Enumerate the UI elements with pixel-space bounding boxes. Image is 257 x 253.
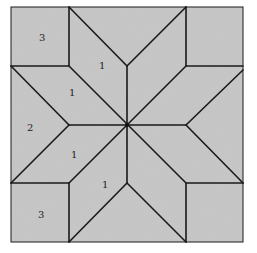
label-diamond-top: 1	[99, 60, 105, 71]
label-corner-bottom-left: 3	[38, 209, 44, 220]
label-triangle-left: 2	[27, 122, 33, 133]
label-diamond-lower-left: 1	[71, 149, 77, 160]
label-diamond-bottom: 1	[102, 179, 108, 190]
star-quilt-diagram: 3 1 1 2 1 1 3	[0, 0, 257, 253]
label-corner-top-left: 3	[39, 32, 45, 43]
label-diamond-upper-left: 1	[69, 87, 75, 98]
center-point	[125, 123, 129, 127]
